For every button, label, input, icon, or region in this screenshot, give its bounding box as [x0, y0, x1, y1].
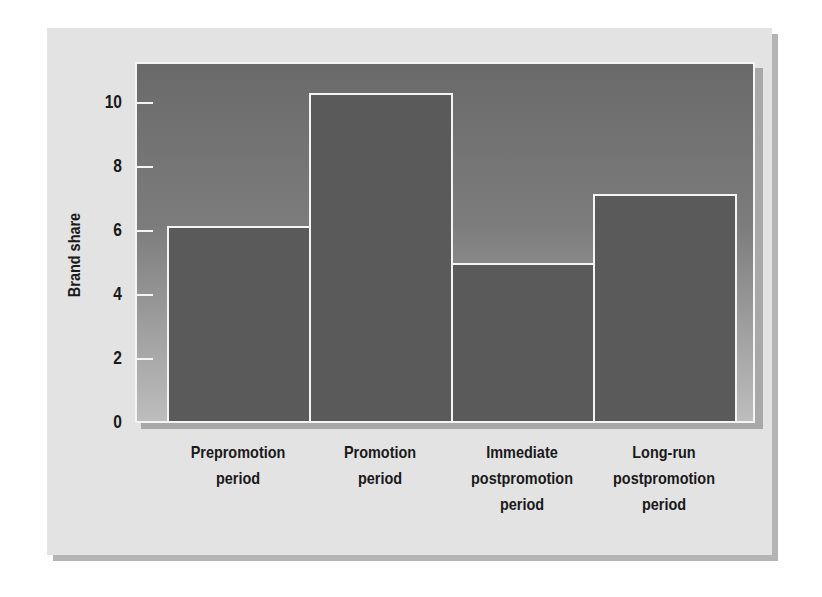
y-tick-label: 0	[97, 411, 122, 433]
y-tick-label: 10	[97, 91, 122, 113]
y-tick-label: 8	[97, 155, 122, 177]
y-axis-label: Brand share	[65, 213, 85, 297]
y-tick	[137, 102, 153, 104]
bar-4	[593, 194, 737, 421]
y-tick-label: 2	[97, 347, 122, 369]
x-tick-label-line: Long-run	[596, 440, 732, 466]
bar-3	[451, 263, 595, 421]
x-tick-label: Long-runpostpromotionperiod	[596, 440, 732, 518]
x-tick-label: Prepromotionperiod	[170, 440, 306, 492]
x-tick-label-line: postpromotion	[596, 466, 732, 492]
x-tick-label-line: Immediate	[454, 440, 590, 466]
x-tick-label-line: Prepromotion	[170, 440, 306, 466]
y-tick-label: 4	[97, 283, 122, 305]
y-tick	[137, 358, 153, 360]
plot-area	[135, 62, 755, 423]
y-tick	[137, 166, 153, 168]
x-tick-label-line: Promotion	[312, 440, 448, 466]
bar-1	[167, 226, 311, 421]
x-tick-label: Immediatepostpromotionperiod	[454, 440, 590, 518]
y-tick	[137, 230, 153, 232]
x-tick-label-line: period	[312, 466, 448, 492]
x-tick-label: Promotionperiod	[312, 440, 448, 492]
x-tick-label-line: period	[454, 492, 590, 518]
x-tick-label-line: period	[170, 466, 306, 492]
x-tick-label-line: period	[596, 492, 732, 518]
y-tick-label: 6	[97, 219, 122, 241]
y-tick	[137, 294, 153, 296]
x-tick-label-line: postpromotion	[454, 466, 590, 492]
bar-2	[309, 93, 453, 421]
